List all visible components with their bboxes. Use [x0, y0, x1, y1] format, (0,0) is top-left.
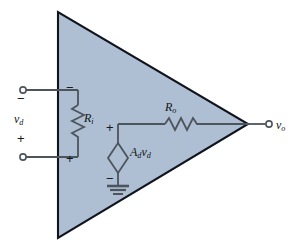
circuit-figure: vd Ri Ro Advd vo − + − + + −	[0, 0, 295, 252]
label-output-resistance: Ro	[165, 101, 176, 115]
polarity-noninverting-input: +	[17, 132, 25, 145]
input-terminal-noninverting	[20, 154, 26, 160]
label-dependent-source: Advd	[130, 146, 151, 160]
polarity-ri-bottom: +	[66, 152, 74, 165]
polarity-source-top: +	[106, 121, 114, 134]
circuit-canvas	[0, 0, 295, 252]
label-input-voltage: vd	[14, 113, 23, 127]
polarity-ri-top: −	[66, 81, 74, 94]
output-terminal	[266, 121, 272, 127]
label-input-resistance: Ri	[84, 112, 94, 126]
polarity-inverting-input: −	[17, 92, 25, 105]
polarity-source-bottom: −	[106, 172, 114, 185]
label-output-voltage: vo	[276, 119, 285, 133]
